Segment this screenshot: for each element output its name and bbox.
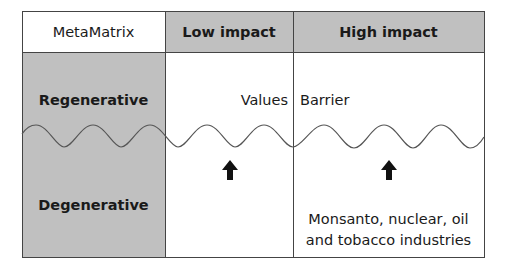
arrow-up-icon [222, 160, 238, 180]
arrow-up-icon [381, 160, 397, 180]
wave-line [22, 125, 484, 148]
wave-layer [0, 0, 505, 272]
